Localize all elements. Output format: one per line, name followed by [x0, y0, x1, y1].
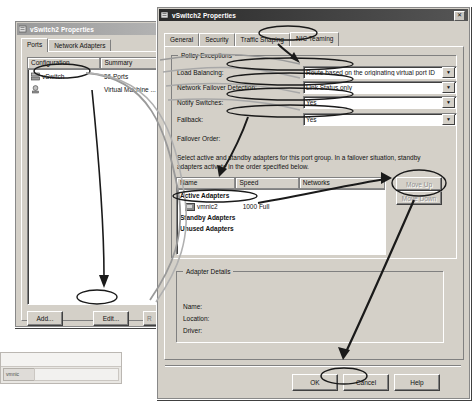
- adapter-detail-location-label: Location:: [183, 315, 209, 322]
- network-failover-detection-label: Network Failover Detection:: [177, 84, 257, 91]
- table-row[interactable]: vSwitch 56 Ports: [28, 70, 170, 83]
- vswitch-icon: [31, 72, 40, 81]
- policy-exceptions-title: Policy Exceptions: [178, 52, 235, 59]
- ports-list[interactable]: Configuration Summary vSwitch 56 Ports V…: [27, 57, 171, 305]
- table-row[interactable]: Virtual Machine ...: [28, 83, 170, 96]
- table-row[interactable]: vmnic2 1000 Full: [177, 201, 385, 212]
- column-networks[interactable]: Networks: [300, 178, 385, 189]
- chevron-down-icon[interactable]: ▼: [442, 97, 455, 108]
- right-dialog-titlebar[interactable]: vSwitch2 Properties ✕: [159, 9, 468, 21]
- tab-security[interactable]: Security: [199, 33, 234, 46]
- load-balancing-value: Route based on the originating virtual p…: [304, 69, 442, 76]
- failover-order-header: Name Speed Networks: [177, 178, 385, 190]
- portgroup-icon: [31, 85, 40, 94]
- failback-value: Yes: [304, 116, 442, 123]
- tab-general[interactable]: General: [164, 33, 199, 46]
- load-balancing-label: Load Balancing:: [177, 69, 224, 76]
- failback-label: Failback:: [177, 116, 203, 123]
- edit-button[interactable]: Edit...: [93, 311, 129, 326]
- adapter-speed: 1000 Full: [240, 203, 301, 210]
- notify-switches-value: Yes: [304, 99, 442, 106]
- group-header-standby-adapters: Standby Adapters: [177, 212, 385, 223]
- network-failover-detection-select[interactable]: Link Status only ▼: [303, 81, 457, 94]
- adapter-detail-name-label: Name:: [183, 303, 202, 310]
- vswitch-icon: [161, 11, 169, 19]
- tab-traffic-shaping[interactable]: Traffic Shaping: [235, 33, 290, 46]
- load-balancing-select[interactable]: Route based on the originating virtual p…: [303, 66, 457, 79]
- ports-list-header: Configuration Summary: [28, 58, 170, 70]
- adapter-detail-driver-label: Driver:: [183, 327, 202, 334]
- background-window-titlebar: [1, 353, 121, 367]
- adapter-details-group: Adapter Details: [176, 271, 444, 343]
- background-window-cell-empty: [34, 368, 119, 381]
- chevron-down-icon[interactable]: ▼: [442, 67, 455, 78]
- ok-button[interactable]: OK: [292, 374, 338, 391]
- failover-order-list[interactable]: Name Speed Networks Active Adapters vmni…: [176, 177, 386, 255]
- failover-order-label: Failover Order:: [177, 135, 220, 142]
- chevron-down-icon[interactable]: ▼: [442, 82, 455, 93]
- move-up-button[interactable]: Move Up: [396, 177, 442, 191]
- right-dialog-tabstrip[interactable]: General Security Traffic Shaping NIC Tea…: [164, 33, 339, 46]
- failover-instructions: Select active and standby adapters for t…: [177, 153, 425, 171]
- help-button[interactable]: Help: [394, 374, 440, 391]
- right-dialog-title: vSwitch2 Properties: [172, 12, 236, 19]
- close-icon[interactable]: ✕: [454, 11, 465, 21]
- column-speed[interactable]: Speed: [236, 178, 299, 189]
- background-window: vmnic: [0, 352, 122, 384]
- background-window-cell-label: vmnic: [3, 368, 35, 381]
- footer-divider-highlight: [165, 366, 461, 367]
- move-down-button[interactable]: Move Down: [396, 191, 442, 205]
- group-header-unused-adapters: Unused Adapters: [177, 223, 385, 234]
- failback-select[interactable]: Yes ▼: [303, 113, 457, 126]
- group-header-active-adapters: Active Adapters: [177, 190, 385, 201]
- column-name[interactable]: Name: [177, 178, 236, 189]
- notify-switches-label: Notify Switches:: [177, 99, 223, 106]
- cancel-button[interactable]: Cancel: [343, 374, 389, 391]
- chevron-down-icon[interactable]: ▼: [442, 114, 455, 125]
- left-dialog-titlebar[interactable]: vSwitch2 Properties: [17, 23, 179, 35]
- notify-switches-select[interactable]: Yes ▼: [303, 96, 457, 109]
- adapter-details-title: Adapter Details: [183, 268, 233, 275]
- column-configuration[interactable]: Configuration: [28, 58, 101, 69]
- network-failover-detection-value: Link Status only: [304, 84, 442, 91]
- nic-icon: [185, 203, 195, 211]
- add-button[interactable]: Add...: [27, 311, 63, 326]
- vswitch-icon: [19, 25, 27, 33]
- left-dialog-title: vSwitch2 Properties: [30, 26, 94, 33]
- row-configuration: vSwitch: [42, 73, 64, 80]
- tab-ports[interactable]: Ports: [21, 38, 48, 52]
- right-vswitch-properties-dialog[interactable]: vSwitch2 Properties ✕ General Security T…: [156, 6, 471, 400]
- tab-nic-teaming[interactable]: NIC Teaming: [290, 32, 339, 46]
- adapter-name: vmnic2: [197, 203, 218, 210]
